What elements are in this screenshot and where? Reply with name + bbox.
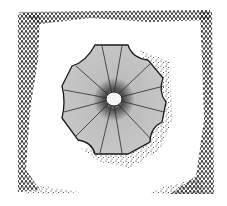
illustration: [0, 0, 227, 206]
frame-bottom-right-stipple: [150, 178, 204, 194]
star-center-highlight: [106, 92, 122, 106]
frame-right-hatch: [170, 12, 214, 194]
frame-left-hatch: [18, 14, 40, 192]
frame-top-hatch: [18, 10, 210, 24]
